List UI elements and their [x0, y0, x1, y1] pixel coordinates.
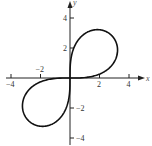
x-tick-label: 2: [97, 80, 101, 89]
x-axis-label: x: [145, 74, 150, 83]
y-axis-arrow-icon: [68, 1, 73, 8]
lemniscate-plot: x y −4−22442−2−4: [0, 0, 152, 146]
y-axis-label: y: [72, 0, 77, 7]
y-tick-label: −2: [76, 104, 85, 113]
y-tick-label: −4: [76, 134, 85, 143]
x-tick-label: 4: [127, 80, 131, 89]
y-tick-label: 4: [63, 14, 67, 23]
x-tick-label: −4: [6, 80, 15, 89]
x-axis-arrow-icon: [138, 76, 145, 81]
y-tick-label: 2: [63, 44, 67, 53]
x-tick-label: −2: [36, 65, 45, 74]
